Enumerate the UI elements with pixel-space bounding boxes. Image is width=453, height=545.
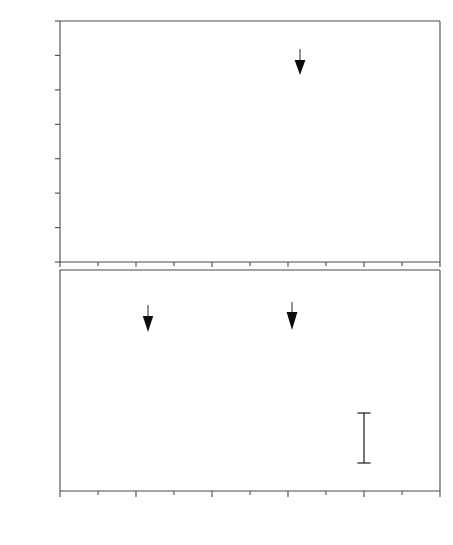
top-panel-x-ticks	[60, 262, 440, 267]
scale-bar	[358, 413, 371, 463]
top-methylamine-annotation	[295, 49, 306, 75]
nigericin-annotation	[143, 305, 153, 332]
bottom-methylamine-arrow-icon	[287, 302, 298, 330]
nigericin-arrow-icon	[143, 305, 153, 332]
top-methylamine-arrow-icon	[295, 49, 306, 75]
scientific-figure	[0, 0, 453, 545]
top-panel-y-ticks	[55, 21, 60, 262]
bottom-methylamine-annotation	[287, 302, 298, 330]
figure-root	[0, 0, 453, 545]
bottom-panel	[60, 270, 440, 497]
bottom-panel-x-ticks	[60, 491, 440, 497]
top-panel	[55, 21, 440, 267]
